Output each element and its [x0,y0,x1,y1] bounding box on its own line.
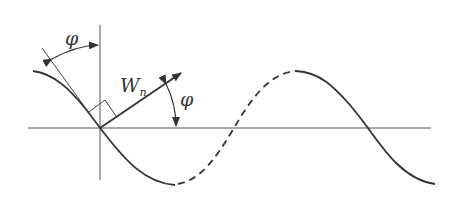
wn-label: Wn [120,76,147,98]
phi-label-right: φ [180,90,193,109]
phi-label-top: φ [65,29,78,48]
wave-diagram: φ φ Wn [0,0,463,213]
tangent-line [42,48,100,128]
right-angle-marker [89,100,116,116]
wn-label-sub: n [140,86,147,99]
wn-label-main: W [120,74,140,96]
phi-arc-right [166,84,176,126]
